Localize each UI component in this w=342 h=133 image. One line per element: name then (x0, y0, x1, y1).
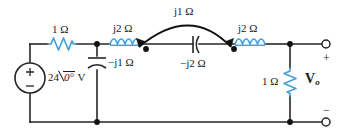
series-capacitor-symbol (193, 36, 199, 53)
output-voltage-subscript: o (315, 77, 320, 87)
junction-node-top-left (94, 41, 100, 47)
load-resistor-label: 1 Ω (262, 76, 278, 87)
terminal-positive (322, 40, 330, 48)
series-capacitor-label: −j2 Ω (180, 58, 206, 69)
source-angle: 0° (64, 71, 74, 83)
left-inductor-symbol (110, 39, 140, 45)
mutual-coupling-label: j1 Ω (174, 6, 193, 17)
output-voltage-label: Vo (305, 72, 320, 87)
circuit-diagram: 240° V 1 Ω −j1 Ω j2 Ω −j2 Ω j2 Ω j1 Ω 1 … (0, 0, 342, 133)
circuit-schematic-svg (0, 0, 342, 133)
right-inductor-symbol (235, 39, 265, 45)
left-inductor-label: j2 Ω (113, 23, 132, 34)
series-resistor-symbol (48, 38, 76, 50)
coupling-polarity-dots (143, 46, 237, 52)
output-plus-sign: + (323, 51, 330, 66)
shunt-capacitor-symbol (88, 58, 106, 68)
output-minus-sign: − (323, 103, 330, 118)
output-voltage-symbol: V (305, 71, 315, 86)
junction-node-bottom-right (287, 119, 293, 125)
source-magnitude: 24 (48, 71, 59, 83)
voltage-source-symbol (15, 63, 45, 93)
source-unit: V (77, 71, 85, 83)
terminal-negative (322, 118, 330, 126)
load-resistor-symbol (284, 68, 296, 96)
angle-notation: 0° (59, 72, 75, 83)
series-resistor-label: 1 Ω (52, 24, 68, 35)
right-inductor-label: j2 Ω (238, 23, 257, 34)
source-label: 240° V (48, 72, 85, 83)
junction-node-bottom-left (94, 119, 100, 125)
dot-left-inductor (143, 46, 149, 52)
dot-right-inductor (231, 46, 237, 52)
shunt-capacitor-label: −j1 Ω (108, 57, 134, 68)
junction-node-top-right (287, 41, 293, 47)
